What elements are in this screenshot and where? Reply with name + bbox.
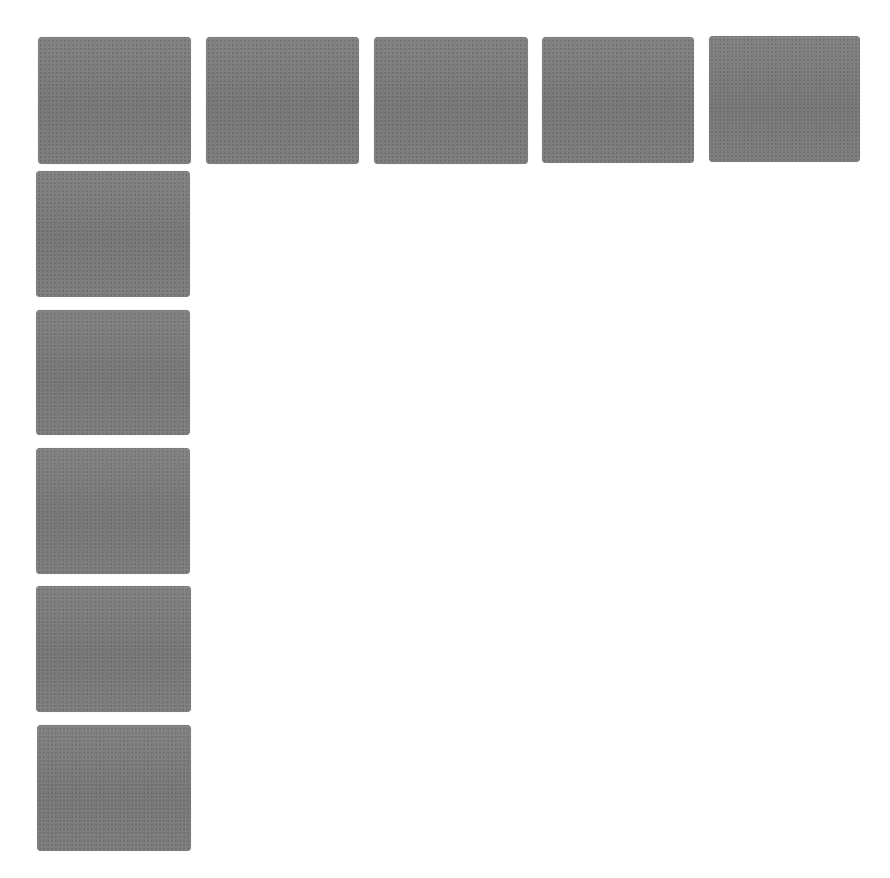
gray-tile-row-1 (38, 37, 191, 164)
gray-tile-col-1 (36, 171, 190, 297)
gray-tile-row-5 (709, 36, 860, 162)
gray-tile-col-3 (36, 448, 190, 574)
gray-tile-row-3 (374, 37, 528, 164)
gray-tile-col-2 (36, 310, 190, 435)
gray-tile-row-2 (206, 37, 359, 164)
gray-tile-row-4 (542, 37, 694, 163)
gray-tile-col-4 (36, 586, 191, 712)
gray-tile-col-5 (37, 725, 191, 851)
